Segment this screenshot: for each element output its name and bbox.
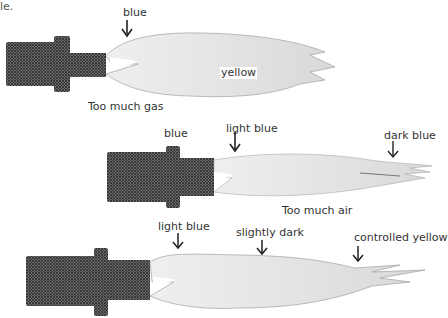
nozzle-icon [6, 36, 106, 92]
flame-shape [214, 154, 432, 196]
arrow-down-icon [173, 233, 183, 248]
label-light-blue: light blue [158, 221, 210, 233]
label-controlled-yellow: controlled yellow [354, 232, 448, 244]
caption-too-much-gas: Too much gas [88, 101, 163, 113]
label-blue: blue [164, 128, 188, 140]
burner-too-much-air [107, 146, 432, 208]
nozzle-icon [26, 248, 150, 316]
arrow-down-icon [388, 141, 398, 157]
label-dark-blue: dark blue [384, 130, 436, 142]
arrow-down-icon [122, 20, 132, 36]
caption-too-much-air: Too much air [282, 205, 352, 217]
flame-shape [106, 33, 335, 97]
arrow-down-icon [353, 246, 363, 261]
label-blue: blue [123, 7, 147, 19]
burner-correct [26, 248, 425, 316]
label-slightly-dark: slightly dark [236, 227, 304, 239]
arrow-down-icon [257, 240, 267, 254]
label-light-blue: light blue [226, 123, 278, 135]
flame-shape [150, 254, 425, 308]
label-yellow: yellow [220, 67, 257, 79]
nozzle-icon [107, 146, 214, 208]
burner-too-much-gas [6, 33, 335, 97]
